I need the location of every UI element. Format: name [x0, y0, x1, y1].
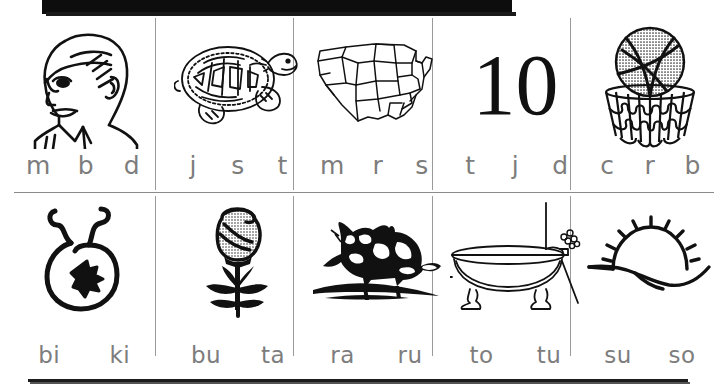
- worksheet-grid: m b d: [14, 20, 714, 372]
- choice-option[interactable]: m: [320, 151, 345, 180]
- choice-option[interactable]: m: [26, 151, 51, 180]
- choice-group: su so: [586, 338, 714, 372]
- worksheet-row: m b d: [14, 20, 714, 180]
- choice-group: c r b: [586, 150, 714, 180]
- choice-group: ra ru: [309, 338, 444, 372]
- choice-group: bu ta: [171, 338, 305, 372]
- choice-option[interactable]: so: [669, 342, 696, 368]
- choice-option[interactable]: d: [121, 151, 143, 180]
- choice-group: bi ki: [14, 338, 155, 372]
- boy-face-icon: [14, 20, 155, 150]
- worksheet-cell[interactable]: j s t: [171, 20, 305, 180]
- number-ten-icon: 10: [448, 20, 583, 150]
- rose-icon: [171, 198, 305, 318]
- worksheet-cell[interactable]: bu ta: [171, 194, 305, 372]
- turtle-icon: [171, 20, 305, 150]
- choice-option[interactable]: b: [682, 151, 704, 180]
- worksheet-cell[interactable]: m b d: [14, 20, 155, 180]
- choice-option[interactable]: t: [460, 151, 482, 180]
- worksheet-cell[interactable]: 10 t j d: [448, 20, 583, 180]
- choice-group: j s t: [171, 150, 305, 180]
- choice-option[interactable]: r: [639, 151, 661, 180]
- choice-option[interactable]: bu: [191, 342, 221, 368]
- choice-option[interactable]: s: [227, 151, 249, 180]
- worksheet-page: m b d: [0, 0, 724, 388]
- worksheet-cell[interactable]: m r s: [309, 20, 444, 180]
- choice-option[interactable]: j: [182, 151, 204, 180]
- bottom-divider-line-shadow: [30, 382, 690, 384]
- choice-option[interactable]: to: [470, 342, 494, 368]
- choice-option[interactable]: d: [550, 151, 572, 180]
- worksheet-cell[interactable]: c r b: [586, 20, 714, 180]
- choice-option[interactable]: ta: [261, 342, 285, 368]
- raccoon-icon: [309, 198, 444, 318]
- choice-option[interactable]: r: [367, 151, 389, 180]
- choice-option[interactable]: j: [505, 151, 527, 180]
- choice-option[interactable]: tu: [537, 342, 562, 368]
- choice-option[interactable]: ru: [398, 342, 423, 368]
- choice-option[interactable]: c: [596, 151, 618, 180]
- worksheet-row: bi ki: [14, 194, 714, 372]
- usa-map-icon: [309, 20, 444, 150]
- choice-option[interactable]: bi: [38, 342, 60, 368]
- choice-group: t j d: [448, 150, 583, 180]
- basketball-hoop-icon: [586, 20, 714, 150]
- choice-group: to tu: [448, 338, 583, 372]
- worksheet-cell[interactable]: bi ki: [14, 194, 155, 372]
- worksheet-cell[interactable]: to tu: [448, 194, 583, 372]
- sunrise-icon: [586, 198, 714, 318]
- top-header-bar-shadow: [46, 12, 516, 16]
- choice-option[interactable]: t: [272, 151, 294, 180]
- bib-icon: [14, 198, 155, 318]
- worksheet-cell[interactable]: su so: [586, 194, 714, 372]
- choice-option[interactable]: b: [75, 151, 97, 180]
- bathtub-icon: [448, 198, 583, 318]
- worksheet-cell[interactable]: ra ru: [309, 194, 444, 372]
- choice-option[interactable]: s: [411, 151, 433, 180]
- choice-group: m b d: [14, 150, 155, 180]
- choice-option[interactable]: ra: [330, 342, 355, 368]
- choice-group: m r s: [309, 150, 444, 180]
- number-text: 10: [473, 42, 559, 128]
- choice-option[interactable]: ki: [109, 342, 131, 368]
- choice-option[interactable]: su: [604, 342, 632, 368]
